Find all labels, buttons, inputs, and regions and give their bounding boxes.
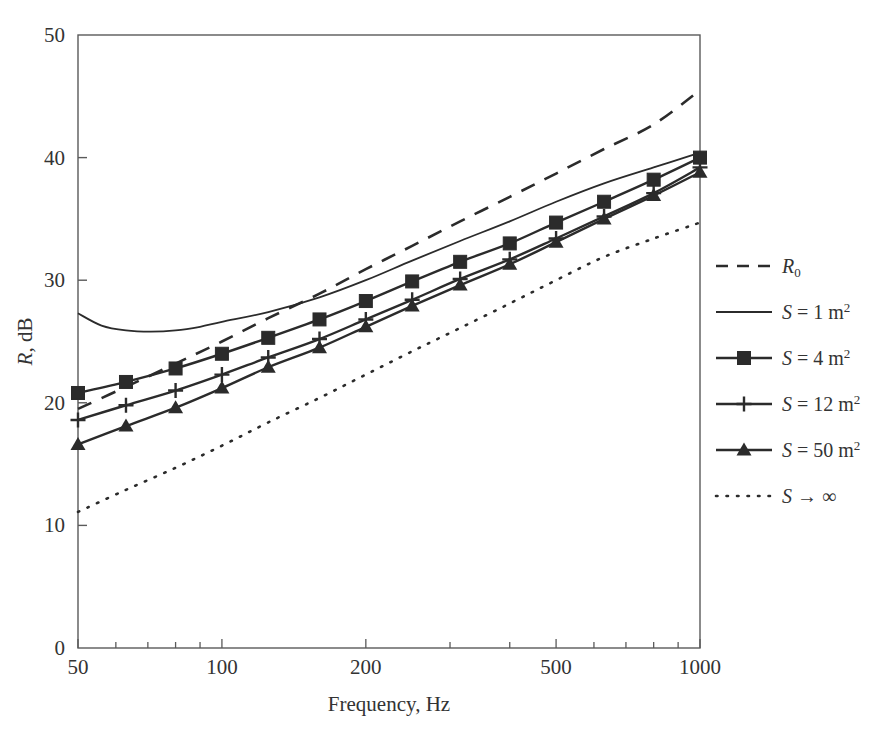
marker-plus	[168, 383, 183, 398]
marker-square	[598, 195, 611, 208]
legend-label: S = 4 m2	[782, 346, 850, 370]
legend-label: S = 12 m2	[782, 392, 860, 416]
marker-square	[454, 255, 467, 268]
legend-label: R0	[781, 255, 801, 280]
marker-square	[359, 295, 372, 308]
x-tick-label: 500	[540, 655, 572, 679]
legend: R0S = 1 m2S = 4 m2S = 12 m2S = 50 m2S → …	[716, 255, 860, 507]
legend-item[interactable]: S = 4 m2	[716, 346, 850, 370]
frequency-transmission-loss-chart: 01020304050501002005001000Frequency, HzR…	[0, 0, 873, 737]
y-tick-label: 0	[55, 636, 66, 660]
y-tick-label: 20	[44, 391, 65, 415]
x-tick-label: 50	[68, 655, 89, 679]
legend-item[interactable]: R0	[716, 255, 801, 280]
series-S-50	[71, 165, 708, 450]
marker-square	[550, 216, 563, 229]
chart-figure: 01020304050501002005001000Frequency, HzR…	[0, 0, 873, 737]
y-tick-label: 50	[44, 23, 65, 47]
marker-square	[72, 386, 85, 399]
legend-item[interactable]: S = 50 m2	[716, 438, 860, 462]
legend-label: S = 1 m2	[782, 300, 850, 324]
marker-square	[262, 331, 275, 344]
legend-item[interactable]: S = 1 m2	[716, 300, 850, 324]
marker-square	[647, 173, 660, 186]
x-tick-label: 100	[206, 655, 238, 679]
x-axis-title: Frequency, Hz	[328, 692, 450, 716]
series-layer	[71, 90, 708, 512]
marker-square	[406, 275, 419, 288]
legend-label: S = 50 m2	[782, 438, 860, 462]
marker-square	[503, 237, 516, 250]
marker-square	[169, 362, 182, 375]
marker-plus	[737, 397, 752, 412]
marker-square	[738, 352, 751, 365]
marker-plus	[214, 367, 229, 382]
x-tick-label: 200	[350, 655, 382, 679]
legend-label: S → ∞	[782, 485, 836, 507]
y-tick-label: 10	[44, 513, 65, 537]
marker-square	[119, 375, 132, 388]
y-tick-label: 30	[44, 268, 65, 292]
marker-triangle	[214, 381, 229, 394]
marker-square	[215, 347, 228, 360]
marker-plus	[71, 412, 86, 427]
series-line	[78, 90, 700, 409]
y-tick-label: 40	[44, 146, 65, 170]
axes-border	[78, 35, 700, 648]
series-line	[78, 153, 700, 332]
series-line	[78, 158, 700, 393]
x-axis: 501002005001000	[68, 639, 722, 679]
legend-item[interactable]: S = 12 m2	[716, 392, 860, 416]
legend-item[interactable]: S → ∞	[716, 485, 836, 507]
series-S-4	[72, 151, 707, 399]
y-axis: 01020304050	[44, 23, 87, 660]
svg-text:R, dB: R, dB	[13, 318, 37, 367]
marker-square	[313, 313, 326, 326]
series-S-1	[78, 153, 700, 332]
plot-frame	[78, 35, 700, 648]
marker-plus	[118, 398, 133, 413]
x-tick-label: 1000	[679, 655, 721, 679]
y-axis-title: R, dB	[13, 318, 37, 367]
series-S-12	[71, 160, 708, 428]
series-R0	[78, 90, 700, 409]
